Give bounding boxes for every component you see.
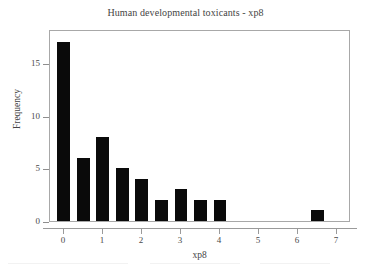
- scan-artifact: [150, 263, 240, 264]
- x-axis-tick-label: 0: [53, 236, 73, 245]
- x-axis-tick: [102, 229, 103, 234]
- x-axis-tick-label: 7: [326, 236, 346, 245]
- bar: [194, 200, 207, 221]
- x-axis-tick: [180, 229, 181, 234]
- x-axis-tick: [297, 229, 298, 234]
- bar: [311, 210, 324, 221]
- y-axis-tick-label: 15: [14, 59, 40, 68]
- y-axis-tick: [43, 222, 49, 223]
- y-axis-tick-label: 0: [14, 217, 40, 226]
- chart-title: Human developmental toxicants - xp8: [0, 7, 371, 18]
- x-axis-line: [43, 228, 357, 229]
- scan-artifact: [8, 263, 128, 264]
- plot-area: [49, 30, 350, 222]
- scan-artifact: [260, 263, 330, 264]
- bar: [57, 42, 70, 221]
- y-axis-tick-label: 5: [14, 164, 40, 173]
- y-axis-tick: [43, 117, 49, 118]
- chart-figure: Human developmental toxicants - xp8 Freq…: [0, 0, 371, 271]
- x-axis-tick: [258, 229, 259, 234]
- bar: [155, 200, 168, 221]
- x-axis-tick: [63, 229, 64, 234]
- x-axis-tick-label: 1: [92, 236, 112, 245]
- bar: [77, 158, 90, 221]
- x-axis-tick: [219, 229, 220, 234]
- x-axis-tick: [336, 229, 337, 234]
- x-axis-tick-label: 6: [287, 236, 307, 245]
- bar: [175, 189, 188, 221]
- bar: [214, 200, 227, 221]
- x-axis-tick-label: 5: [248, 236, 268, 245]
- bar: [135, 179, 148, 221]
- bars-layer: [50, 31, 349, 221]
- x-axis-tick: [141, 229, 142, 234]
- y-axis-tick: [43, 169, 49, 170]
- bar: [96, 137, 109, 221]
- x-axis-tick-label: 2: [131, 236, 151, 245]
- x-axis-tick-label: 4: [209, 236, 229, 245]
- y-axis-tick: [43, 64, 49, 65]
- x-axis-label: xp8: [49, 250, 350, 260]
- x-axis-tick-label: 3: [170, 236, 190, 245]
- y-axis-label: Frequency: [12, 64, 22, 154]
- y-axis-tick-label: 10: [14, 112, 40, 121]
- bar: [116, 168, 129, 221]
